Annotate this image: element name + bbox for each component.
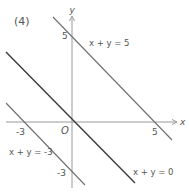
line-x-plus-y-eq-neg3 — [6, 103, 85, 185]
origin-label: O — [61, 125, 69, 136]
tick-x-neg3: -3 — [16, 127, 25, 137]
tick-y-5: 5 — [62, 31, 68, 41]
y-axis-label: y — [69, 5, 76, 15]
problem-label: (4) — [14, 15, 30, 28]
line-label-x-plus-y-eq-0: x + y = 0 — [133, 167, 174, 177]
tick-y-neg3: -3 — [57, 168, 66, 178]
line-x-plus-y-eq-0 — [6, 52, 135, 183]
line-label-x-plus-y-eq-neg3: x + y = -3 — [9, 147, 53, 157]
tick-x-5: 5 — [152, 127, 158, 137]
line-label-x-plus-y-eq-5: x + y = 5 — [89, 38, 130, 48]
x-axis-label: x — [179, 117, 186, 127]
graph-figure: (4) x y O x + y = 5 x + y = 0 x + y = -3… — [0, 0, 189, 192]
